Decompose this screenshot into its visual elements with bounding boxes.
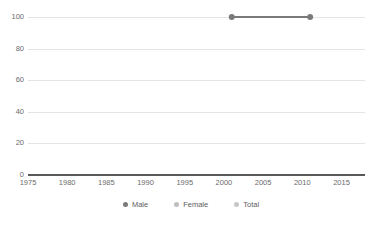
x-tick-label: 2005 bbox=[255, 179, 272, 187]
legend-item-male[interactable]: Male bbox=[123, 201, 148, 209]
legend-dot-icon bbox=[174, 202, 179, 207]
x-tick-label: 2000 bbox=[216, 179, 233, 187]
y-tick-label: 100 bbox=[11, 13, 24, 21]
x-tick-label: 1995 bbox=[176, 179, 193, 187]
x-tick-label: 2015 bbox=[333, 179, 350, 187]
legend-label: Female bbox=[183, 201, 208, 209]
legend-label: Male bbox=[132, 201, 148, 209]
x-tick-label: 1990 bbox=[137, 179, 154, 187]
x-tick-label: 2010 bbox=[294, 179, 311, 187]
legend-item-female[interactable]: Female bbox=[174, 201, 208, 209]
x-tick-label: 1980 bbox=[59, 179, 76, 187]
series-layer bbox=[28, 17, 365, 175]
data-point-male[interactable] bbox=[229, 14, 235, 20]
data-point-male[interactable] bbox=[307, 14, 313, 20]
legend-item-total[interactable]: Total bbox=[234, 201, 259, 209]
legend-dot-icon bbox=[123, 202, 128, 207]
chart-legend: MaleFemaleTotal bbox=[0, 201, 382, 209]
x-tick-label: 1985 bbox=[98, 179, 115, 187]
y-tick-label: 20 bbox=[16, 140, 24, 148]
y-tick-label: 80 bbox=[16, 45, 24, 53]
legend-label: Total bbox=[243, 201, 259, 209]
y-axis: 020406080100 bbox=[0, 17, 24, 175]
y-tick-label: 40 bbox=[16, 108, 24, 116]
x-tick-label: 1975 bbox=[20, 179, 37, 187]
y-tick-label: 60 bbox=[16, 76, 24, 84]
legend-dot-icon bbox=[234, 202, 239, 207]
x-axis: 197519801985199019952000200520102015 bbox=[28, 179, 365, 191]
line-chart: 020406080100 197519801985199019952000200… bbox=[0, 0, 382, 226]
plot-area bbox=[28, 17, 365, 175]
